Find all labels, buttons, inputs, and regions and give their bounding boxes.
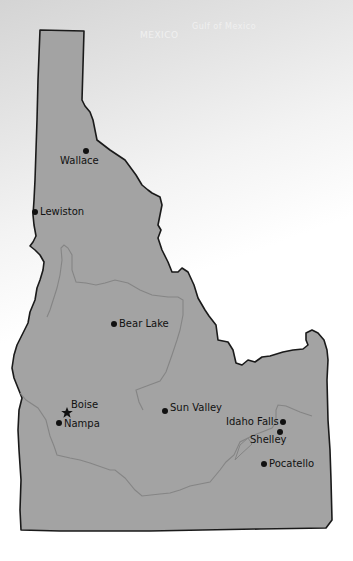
city-marker-nampa[interactable] <box>56 420 62 426</box>
city-marker-idaho-falls[interactable] <box>280 419 286 425</box>
city-marker-pocatello[interactable] <box>261 461 267 467</box>
city-label-bear-lake: Bear Lake <box>119 318 169 330</box>
city-label-boise: Boise <box>71 399 98 411</box>
city-label-sun-valley: Sun Valley <box>170 402 222 414</box>
city-label-wallace: Wallace <box>60 155 99 167</box>
city-marker-sun-valley[interactable] <box>162 408 168 414</box>
city-label-shelley: Shelley <box>250 434 286 446</box>
city-marker-lewiston[interactable] <box>32 209 38 215</box>
city-label-idaho-falls: Idaho Falls <box>226 416 279 428</box>
city-marker-bear-lake[interactable] <box>111 321 117 327</box>
city-label-nampa: Nampa <box>64 418 100 430</box>
city-label-lewiston: Lewiston <box>40 206 84 218</box>
city-marker-wallace[interactable] <box>83 148 89 154</box>
idaho-map <box>0 0 353 561</box>
city-label-pocatello: Pocatello <box>269 458 314 470</box>
